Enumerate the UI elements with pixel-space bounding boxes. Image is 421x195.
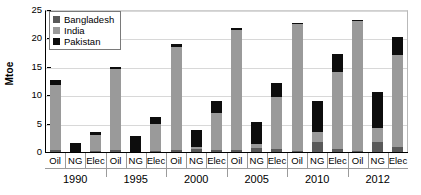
category-separator [106,153,107,168]
category-separator [247,153,248,168]
category-label: Oil [227,153,247,168]
category-separator [287,153,288,168]
category-separator [327,153,328,168]
y-axis-title: Mtoe [4,51,15,97]
chart-legend: BangladeshIndiaPakistan [49,11,121,50]
category-separator [166,153,167,168]
category-label: NG [368,153,388,168]
bar [130,136,141,152]
category-label: Oil [348,153,368,168]
category-label: Oil [287,153,307,168]
year-separator [348,169,349,177]
bar-segment [251,122,262,143]
y-tick-label: 0 [12,147,42,157]
year-label: 2005 [227,171,288,187]
bar [352,20,363,152]
legend-swatch-icon [53,16,60,23]
bar [312,101,323,152]
bar-segment [372,92,383,128]
year-separator [106,169,107,177]
category-label: Elec [327,153,347,168]
bar-segment [191,130,202,147]
year-separator [166,169,167,177]
category-label: NG [65,153,85,168]
bar-segment [211,101,222,113]
year-axis: 199019952000200520102012 [45,169,408,189]
bar-segment [392,55,403,148]
bar [50,80,61,152]
y-axis: 0510152025 [6,0,42,195]
bar-segment [312,101,323,131]
year-separator [227,169,228,177]
category-separator [65,153,66,168]
y-tick-label: 20 [12,33,42,43]
bar-segment [90,135,101,151]
y-tick-label: 25 [12,5,42,15]
legend-item: Bangladesh [53,14,114,25]
category-separator [388,153,389,168]
bar-segment [392,37,403,55]
bar-segment [171,47,182,150]
legend-item: India [53,25,114,36]
bar-segment [352,21,363,151]
bar-segment [292,24,303,151]
bar [171,44,182,152]
bar [392,37,403,152]
bar-segment [332,54,343,72]
bar [231,28,242,152]
bar-segment [332,72,343,149]
category-label: NG [126,153,146,168]
year-label: 1990 [45,171,106,187]
legend-label: Pakistan [64,36,100,47]
year-separator [287,169,288,177]
bar [292,23,303,152]
category-separator [85,153,86,168]
year-label: 1995 [106,171,167,187]
category-label: NG [247,153,267,168]
category-separator [146,153,147,168]
category-label: Oil [106,153,126,168]
bar-segment [70,143,81,152]
category-label: Elec [206,153,226,168]
category-separator [227,153,228,168]
bar-segment [312,132,323,143]
category-separator [126,153,127,168]
category-separator [348,153,349,168]
bar-segment [271,97,282,149]
bar-segment [231,30,242,150]
category-label: Elec [85,153,105,168]
category-separator [267,153,268,168]
bar-segment [130,136,141,152]
bar [211,101,222,152]
bar [251,122,262,152]
legend-label: Bangladesh [64,14,114,25]
category-label: Elec [388,153,408,168]
category-label: Oil [45,153,65,168]
category-label: NG [186,153,206,168]
bar-segment [150,124,161,151]
category-label: Oil [166,153,186,168]
y-tick-label: 15 [12,62,42,72]
year-label: 2012 [348,171,409,187]
category-separator [368,153,369,168]
category-label: Elec [146,153,166,168]
legend-swatch-icon [53,27,60,34]
bar-segment [110,69,121,150]
year-label: 2000 [166,171,227,187]
bar [150,117,161,152]
bar [271,83,282,152]
bar [372,92,383,152]
bar [70,143,81,152]
legend-label: India [64,25,85,36]
legend-swatch-icon [53,38,60,45]
bar-segment [372,128,383,142]
bar-segment [271,83,282,96]
category-label: Elec [267,153,287,168]
category-separator [307,153,308,168]
bar [110,67,121,152]
legend-item: Pakistan [53,36,114,47]
year-label: 2010 [287,171,348,187]
category-label: NG [307,153,327,168]
chart-container: 0510152025 Mtoe OilNGElecOilNGElecOilNGE… [0,0,421,195]
bar-segment [372,142,383,152]
